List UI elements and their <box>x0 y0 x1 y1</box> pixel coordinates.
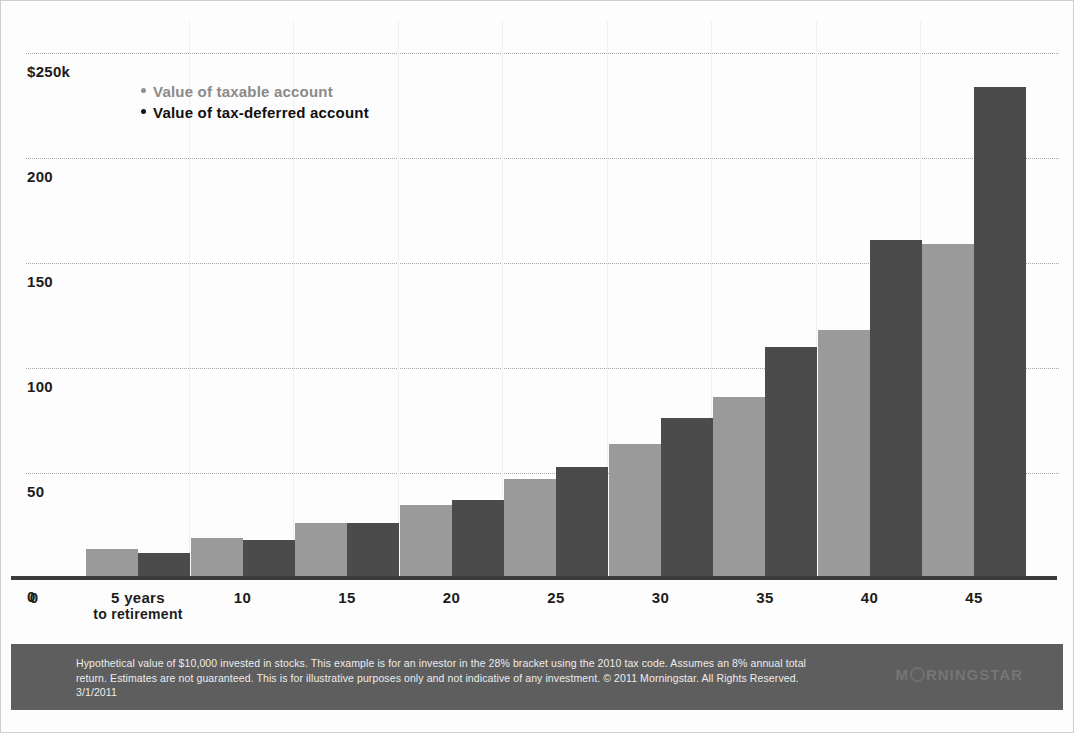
footnote-text: Hypothetical value of $10,000 invested i… <box>76 656 836 700</box>
x-tick-label: 45 <box>922 589 1026 606</box>
bar-taxable <box>818 330 870 578</box>
bar-taxable <box>922 244 974 578</box>
x-tick-label: 0 <box>0 589 86 606</box>
bar-taxable <box>713 397 765 578</box>
x-tick-label: 15 <box>295 589 399 606</box>
x-tick-label: 35 <box>713 589 817 606</box>
bar-group <box>713 31 817 578</box>
bar-group <box>400 31 504 578</box>
y-tick-label: 150 <box>27 273 53 290</box>
bar-taxable <box>609 444 661 578</box>
y-tick-label: 200 <box>27 168 53 185</box>
y-tick-label: 100 <box>27 378 53 395</box>
legend-item-tax-deferred: Value of tax-deferred account <box>141 102 369 123</box>
y-tick-label: 50 <box>27 483 44 500</box>
bar-tax-deferred <box>765 347 817 578</box>
x-tick-label: 20 <box>400 589 504 606</box>
bar-group <box>609 31 713 578</box>
bar-tax-deferred <box>870 240 922 578</box>
bar-tax-deferred <box>138 553 190 578</box>
bar-tax-deferred <box>347 523 399 578</box>
bar-group <box>504 31 608 578</box>
x-tick-label: 10 <box>191 589 295 606</box>
morningstar-logo: M RNINGSTAR <box>895 666 1023 683</box>
brand-ring-icon <box>910 667 925 682</box>
legend-marker-tax-deferred-icon <box>141 109 146 114</box>
bar-taxable <box>191 538 243 578</box>
y-tick-label: $250k <box>27 63 70 80</box>
x-tick-label: 5 yearsto retirement <box>86 589 190 623</box>
x-tick-label: 30 <box>609 589 713 606</box>
legend-item-taxable: Value of taxable account <box>141 81 369 102</box>
legend-label-taxable: Value of taxable account <box>153 83 333 100</box>
footer-band: Hypothetical value of $10,000 invested i… <box>11 644 1063 710</box>
legend-label-tax-deferred: Value of tax-deferred account <box>153 104 369 121</box>
bar-tax-deferred <box>452 500 504 578</box>
x-tick-label: 40 <box>818 589 922 606</box>
x-tick-label: 25 <box>504 589 608 606</box>
chart-figure: $250k200150100500 05 yearsto retirement1… <box>0 0 1074 733</box>
chart-legend: Value of taxable account Value of tax-de… <box>141 81 369 123</box>
bar-taxable <box>504 479 556 578</box>
bar-group <box>922 31 1026 578</box>
bar-group <box>818 31 922 578</box>
x-tick-sublabel: to retirement <box>86 606 190 623</box>
bar-taxable <box>400 505 452 579</box>
brand-name-text: RNINGSTAR <box>926 666 1023 683</box>
legend-marker-taxable-icon <box>141 88 146 93</box>
bar-tax-deferred <box>556 467 608 578</box>
bar-tax-deferred <box>661 418 713 578</box>
bar-taxable <box>295 523 347 578</box>
bar-tax-deferred <box>974 87 1026 578</box>
bar-tax-deferred <box>243 540 295 578</box>
x-axis-line <box>11 576 1057 580</box>
bar-taxable <box>86 549 138 578</box>
brand-m-letter: M <box>895 666 909 683</box>
